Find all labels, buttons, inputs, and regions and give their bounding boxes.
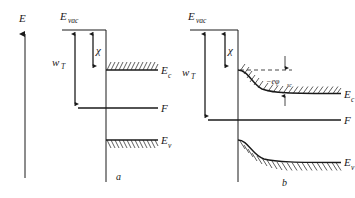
panel-b-valence-band-hatching [240,141,341,171]
panel-b-fermi-level-label: F [343,114,351,126]
panel-b-electron-affinity-label: χ [227,44,234,56]
panel-b-valence-band-label: E [343,156,351,168]
panel-a-caption: a [116,171,121,182]
panel-a-valence-band-sublabel: v [168,141,172,150]
panel-b-caption: b [282,177,287,188]
figure-root: E [0,0,355,198]
band-diagram-svg: E [0,0,355,198]
panel-b: E vac E c F E v χ w T −eφ sc b [182,10,355,188]
panel-a-work-function-label: w [52,56,60,68]
energy-axis-label: E [18,12,26,24]
panel-a-valence-band-label: E [160,134,168,146]
panel-b-work-function-label: w [182,66,190,78]
panel-a-conduction-band-sublabel: c [168,71,172,80]
panel-b-band-bending-label: −eφ [266,77,280,86]
energy-axis: E [18,12,26,178]
panel-a-fermi-level-label: F [160,102,168,114]
panel-a-electron-affinity-label: χ [95,44,102,56]
panel-b-vacuum-level-label: E [187,10,195,22]
panel-a-work-function-sublabel: T [61,62,66,71]
panel-a-valence-band-hatching [107,140,158,148]
panel-b-vacuum-level-sublabel: vac [196,16,207,25]
panel-b-band-bending-sublabel: sc [287,82,292,88]
panel-b-valence-band-curve [238,140,341,163]
panel-b-conduction-band-label: E [343,88,351,100]
panel-a-vacuum-level-label: E [59,10,67,22]
panel-b-labels: E vac E c F E v χ w T −eφ sc b [182,10,355,188]
panel-b-valence-band-sublabel: v [351,163,355,172]
panel-a-vacuum-level-sublabel: vac [68,16,79,25]
panel-a-conduction-band-label: E [160,64,168,76]
panel-a-labels: E vac E c F E v χ w T a [52,10,172,182]
panel-a: E vac E c F E v χ w T a [52,10,172,182]
panel-b-work-function-sublabel: T [191,72,196,81]
panel-b-conduction-band-hatching [240,64,341,94]
panel-b-conduction-band-sublabel: c [351,95,355,104]
panel-a-conduction-band-hatching [107,62,158,70]
